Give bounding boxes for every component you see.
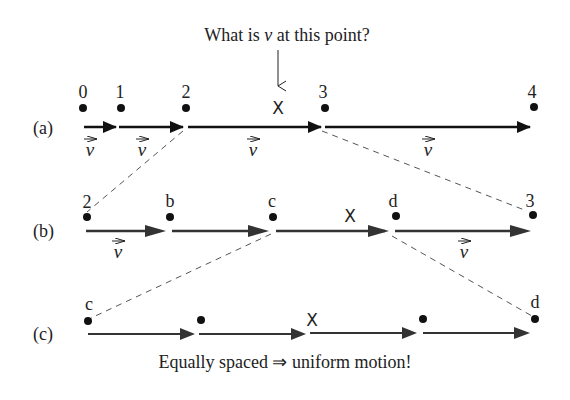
uniform-motion-diagram: What is v at this point? (a) 0 1 2 3 4 X…: [0, 0, 570, 400]
position-dot: [83, 213, 91, 221]
position-dot: [182, 104, 190, 112]
x-marker: X: [272, 98, 284, 118]
row-b: (b) 2 b c d 3 X v v: [33, 191, 537, 262]
row-label-b: (b): [33, 221, 54, 242]
conclusion-text: Equally spaced ⇒ uniform motion!: [159, 352, 412, 372]
position-dot: [117, 104, 125, 112]
position-dot: [419, 315, 427, 323]
point-label: b: [166, 191, 175, 211]
velocity-label: v: [114, 241, 123, 262]
question-text: What is v at this point?: [204, 25, 370, 45]
point-label: 1: [116, 82, 125, 102]
position-dot: [392, 212, 400, 220]
position-dot: [529, 211, 537, 219]
velocity-label: v: [249, 139, 258, 160]
x-marker: X: [306, 310, 318, 330]
point-label: c: [268, 191, 276, 211]
point-label: 2: [83, 192, 92, 212]
point-label: d: [531, 292, 540, 312]
point-label: 3: [526, 191, 535, 211]
position-dot: [79, 104, 87, 112]
position-dot: [531, 315, 539, 323]
position-dot: [166, 213, 174, 221]
point-label: 4: [528, 82, 537, 102]
point-label: 3: [319, 82, 328, 102]
x-marker: X: [344, 206, 356, 226]
velocity-labels-a: v v v v: [84, 139, 435, 160]
velocity-label: v: [86, 139, 95, 160]
position-dot: [269, 213, 277, 221]
position-dot: [197, 316, 205, 324]
velocity-label: v: [138, 139, 147, 160]
row-a: (a) 0 1 2 3 4 X v v v: [33, 82, 538, 160]
point-label: 0: [79, 82, 88, 102]
row-label-c: (c): [33, 324, 53, 345]
row-label-a: (a): [33, 118, 53, 139]
velocity-label: v: [460, 241, 469, 262]
point-label: 2: [182, 82, 191, 102]
row-c: (c) c d X: [33, 292, 540, 345]
point-label: d: [389, 191, 398, 211]
position-dot: [84, 317, 92, 325]
velocity-label: v: [424, 139, 433, 160]
position-dot: [321, 104, 329, 112]
point-label: c: [85, 294, 93, 314]
position-dot: [530, 103, 538, 111]
